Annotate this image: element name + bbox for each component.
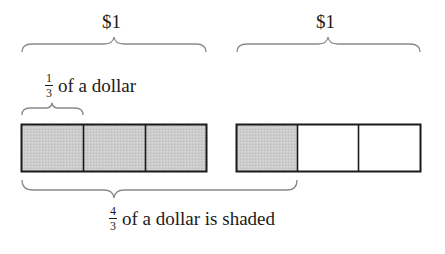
bar1-cell-1-shaded (22, 125, 84, 172)
bar1-cell-2-shaded (84, 125, 146, 172)
bar-dollar-2 (237, 125, 421, 172)
bar2-cell-2 (298, 125, 359, 172)
fraction-numerator: 4 (109, 205, 117, 219)
one-third-label: 1 3 of a dollar (45, 72, 136, 99)
top-label-dollar-1: $1 (102, 12, 121, 31)
bar2-cell-3 (359, 125, 421, 172)
fraction-denominator: 3 (45, 86, 53, 99)
shaded-amount-label: 4 3 of a dollar is shaded (109, 205, 275, 232)
bottom-brace-four-thirds (22, 180, 297, 198)
bar-dollar-1 (22, 125, 207, 172)
top-label-dollar-2: $1 (316, 12, 335, 31)
fraction-one-third: 1 3 (45, 72, 53, 99)
bar2-cell-1-shaded (237, 125, 298, 172)
shaded-amount-text: of a dollar is shaded (122, 208, 275, 229)
top-brace-dollar-1 (22, 37, 206, 52)
bar1-cell-3-shaded (146, 125, 207, 172)
brace-one-third (22, 103, 83, 115)
top-brace-dollar-2 (237, 37, 420, 52)
one-third-text: of a dollar (58, 75, 136, 96)
fraction-four-thirds: 4 3 (109, 205, 117, 232)
fraction-numerator: 1 (45, 72, 53, 86)
fraction-denominator: 3 (109, 219, 117, 232)
